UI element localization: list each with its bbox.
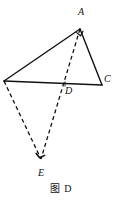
geometry-figure: A C D E 图 D [0, 0, 122, 201]
right-angle-mark-E [36, 153, 44, 157]
segment-BA [4, 29, 80, 81]
vertex-label-c: C [104, 74, 111, 84]
segment-BE-dashed [4, 81, 41, 159]
segment-BC [4, 81, 102, 85]
vertex-label-d: D [65, 86, 72, 96]
figure-caption: 图 D [0, 183, 122, 195]
vertex-label-a: A [78, 7, 84, 17]
geometry-canvas [0, 0, 122, 201]
segment-AE-dashed [41, 29, 80, 159]
segment-AC [80, 29, 102, 85]
vertex-label-e: E [38, 168, 44, 178]
